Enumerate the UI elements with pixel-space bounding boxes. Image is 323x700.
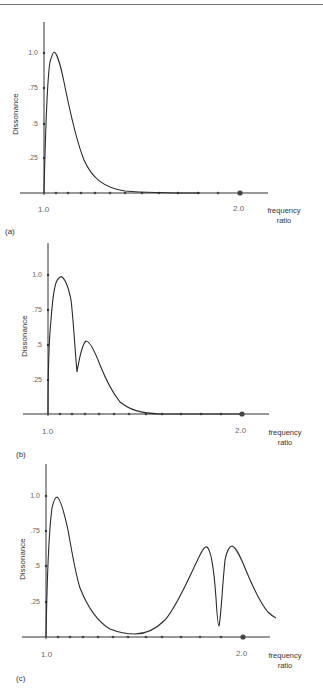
y-tick-label: .25 bbox=[20, 598, 40, 605]
panel-label: (c) bbox=[16, 674, 25, 683]
y-axis-label: Dissonance bbox=[18, 538, 27, 580]
y-tick-label: .75 bbox=[20, 527, 40, 534]
x-axis-label: frequency ratio bbox=[265, 651, 305, 671]
y-tick-label: .5 bbox=[20, 562, 40, 569]
chart-panel-c: Dissonance 1.0 .75 .5 .25 1.0 2.0 freque… bbox=[0, 0, 323, 700]
chart-c-plot bbox=[0, 0, 323, 700]
x-tick-label: 2.0 bbox=[236, 649, 247, 658]
octave-marker bbox=[240, 634, 245, 639]
x-tick-label: 1.0 bbox=[41, 650, 52, 659]
y-tick-label: 1.0 bbox=[20, 492, 40, 499]
dissonance-curve bbox=[46, 497, 276, 637]
